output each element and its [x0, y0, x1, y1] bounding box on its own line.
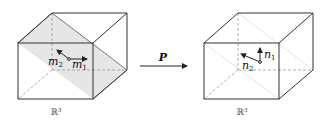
faint-plane-edges	[204, 13, 313, 99]
shaded-plane	[18, 13, 127, 99]
n1-label: n1	[264, 48, 276, 62]
visible-edges	[204, 13, 313, 99]
projection-diagram: m2 m1 ℝ³ P n2 n1	[0, 0, 329, 120]
left-cube: m2 m1 ℝ³	[18, 13, 127, 117]
right-space-label: ℝ³	[236, 107, 247, 117]
right-cube: n2 n1 ℝ³	[204, 13, 313, 117]
projection-arrow: P	[140, 51, 187, 66]
projection-label: P	[158, 51, 168, 64]
left-space-label: ℝ³	[50, 107, 61, 117]
hidden-edges	[204, 13, 313, 99]
n2-label: n2	[242, 59, 254, 73]
